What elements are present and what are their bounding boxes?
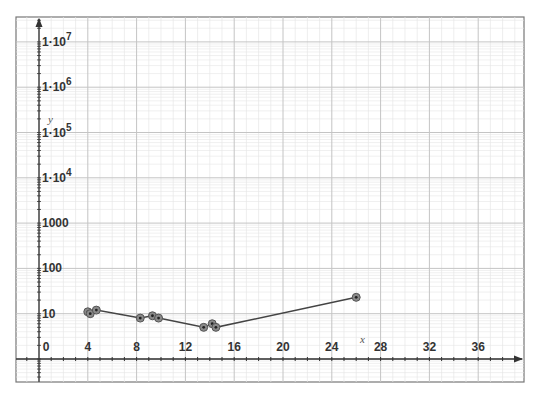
x-tick-label: 24 — [325, 340, 339, 354]
data-point-center — [202, 326, 205, 329]
data-point-center — [157, 317, 160, 320]
x-tick-label: 8 — [133, 340, 140, 354]
x-tick-label: 12 — [179, 340, 193, 354]
data-point-center — [215, 326, 218, 329]
x-tick-label: 16 — [228, 340, 242, 354]
x-tick-label: 0 — [43, 340, 50, 354]
x-axis-label: x — [359, 333, 365, 345]
data-point-center — [355, 296, 358, 299]
data-point-center — [89, 312, 92, 315]
x-tick-label: 20 — [276, 340, 290, 354]
x-tick-label: 28 — [374, 340, 388, 354]
x-tick-label: 32 — [423, 340, 437, 354]
y-axis-label: y — [47, 113, 53, 125]
log-scale-line-chart: 048121620242832361010010001·1041·1051·10… — [0, 0, 541, 401]
y-tick-label: 100 — [42, 261, 62, 275]
y-tick-label: 1000 — [42, 216, 69, 230]
data-point-center — [95, 309, 98, 312]
x-tick-label: 36 — [472, 340, 486, 354]
x-tick-label: 4 — [84, 340, 91, 354]
y-tick-label: 10 — [42, 307, 56, 321]
data-point-center — [139, 317, 142, 320]
data-point-center — [151, 314, 154, 317]
